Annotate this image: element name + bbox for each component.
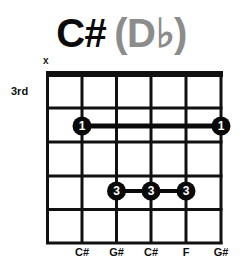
svg-text:3: 3 <box>113 184 120 198</box>
note-label: F <box>171 246 201 258</box>
svg-text:1: 1 <box>79 119 86 133</box>
finger-dot: 3 <box>107 182 126 201</box>
note-label: G# <box>206 246 236 258</box>
svg-text:1: 1 <box>218 119 225 133</box>
svg-text:3: 3 <box>148 184 155 198</box>
nut <box>46 71 223 77</box>
note-label: G# <box>102 246 132 258</box>
note-label: C# <box>136 246 166 258</box>
chord-grid: 1 1 3 3 3 <box>0 0 243 271</box>
svg-text:3: 3 <box>183 184 190 198</box>
finger-dot: 3 <box>142 182 161 201</box>
finger-dot: 1 <box>73 117 92 136</box>
finger-dot: 1 <box>212 117 231 136</box>
strings <box>48 72 222 244</box>
note-label: C# <box>67 246 97 258</box>
finger-dot: 3 <box>177 182 196 201</box>
